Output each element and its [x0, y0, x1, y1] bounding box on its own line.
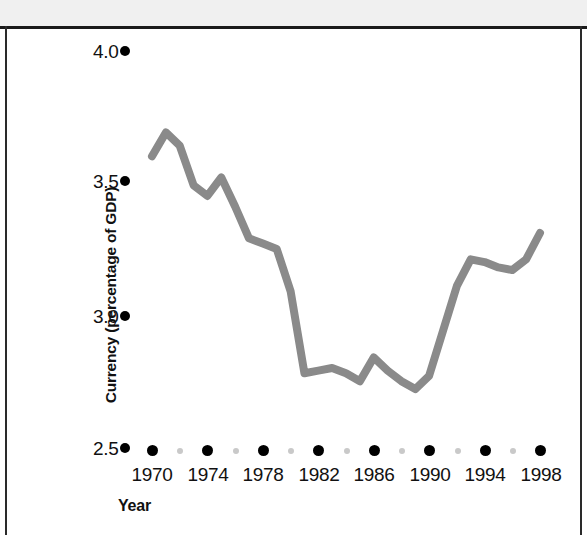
x-tick-dot-1994-icon	[480, 445, 491, 456]
x-tick-label-1998: 1998	[511, 464, 571, 486]
x-tick-label-1974: 1974	[178, 464, 238, 486]
x-minor-dot-1992-icon	[455, 448, 461, 454]
x-tick-label-1990: 1990	[400, 464, 460, 486]
x-tick-dot-1998-icon	[535, 445, 546, 456]
x-minor-dot-1996-icon	[510, 448, 516, 454]
x-tick-dot-1982-icon	[313, 445, 324, 456]
x-axis-title: Year	[118, 497, 151, 515]
x-tick-label-1994: 1994	[455, 464, 515, 486]
x-tick-dot-1970-icon	[147, 445, 158, 456]
x-tick-dot-1990-icon	[424, 445, 435, 456]
data-line-svg	[0, 0, 587, 535]
x-minor-dot-1972-icon	[177, 448, 183, 454]
x-minor-dot-1984-icon	[344, 448, 350, 454]
figure-container: Currency (percentage of GDP) 4.0 3.5 3.0…	[0, 0, 587, 535]
x-tick-label-1970: 1970	[122, 464, 182, 486]
x-tick-dot-1974-icon	[202, 445, 213, 456]
x-tick-dot-1978-icon	[258, 445, 269, 456]
x-tick-label-1978: 1978	[233, 464, 293, 486]
x-minor-dot-1980-icon	[288, 448, 294, 454]
x-tick-dot-1986-icon	[369, 445, 380, 456]
x-minor-dot-1976-icon	[233, 448, 239, 454]
plot-area	[0, 0, 587, 535]
x-tick-label-1982: 1982	[289, 464, 349, 486]
x-tick-label-1986: 1986	[344, 464, 404, 486]
currency-line-series	[152, 132, 540, 389]
x-minor-dot-1988-icon	[399, 448, 405, 454]
